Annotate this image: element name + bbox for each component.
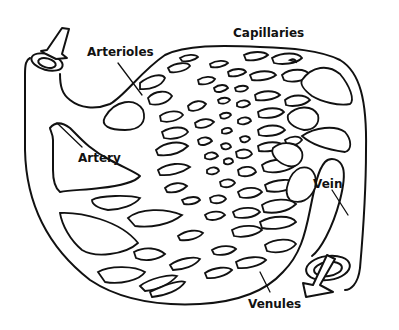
label-venules: Venules <box>248 297 301 311</box>
capillary-bed-diagram: Capillaries Arterioles Artery Vein Venul… <box>0 0 399 330</box>
label-artery: Artery <box>78 151 121 165</box>
artery-inflow-arrow-icon <box>29 28 69 74</box>
vein-leader-line <box>332 190 348 215</box>
label-vein: Vein <box>313 177 342 191</box>
label-arterioles: Arterioles <box>87 45 154 59</box>
label-capillaries: Capillaries <box>233 26 304 40</box>
capillary-network <box>60 52 352 297</box>
